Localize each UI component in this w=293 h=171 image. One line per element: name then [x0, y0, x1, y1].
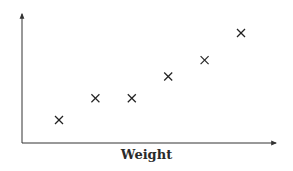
data-points: [55, 29, 245, 124]
x-marker: [55, 116, 63, 124]
scatter-chart: [0, 0, 293, 171]
x-marker: [201, 56, 209, 64]
x-marker: [128, 94, 136, 102]
x-marker: [237, 29, 245, 37]
x-axis-label: Weight: [0, 147, 293, 162]
x-marker: [164, 73, 172, 81]
x-marker: [91, 94, 99, 102]
